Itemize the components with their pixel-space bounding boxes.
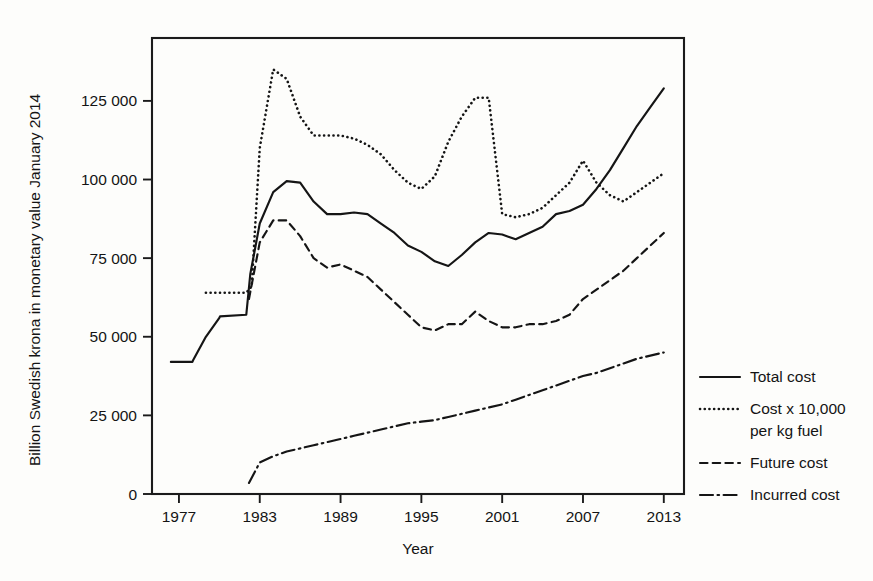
legend-label: Future cost (750, 454, 828, 471)
y-tick-label: 125 000 (81, 92, 137, 109)
x-tick-label: 1977 (162, 508, 196, 525)
y-tick-label: 0 (128, 486, 137, 503)
x-tick-label: 1983 (243, 508, 277, 525)
legend-label-continued: per kg fuel (750, 422, 822, 439)
x-tick-label: 1995 (404, 508, 438, 525)
y-tick-label: 100 000 (81, 171, 137, 188)
x-tick-label: 2007 (566, 508, 600, 525)
x-tick-label: 2001 (485, 508, 519, 525)
y-tick-label: 25 000 (90, 407, 138, 424)
x-axis-title: Year (402, 540, 433, 557)
y-tick-label: 75 000 (90, 250, 138, 267)
x-tick-label: 1989 (323, 508, 357, 525)
legend-label: Incurred cost (750, 486, 840, 503)
line-chart-figure: Billion Swedish krona in monetary value … (0, 0, 873, 581)
y-tick-label: 50 000 (90, 328, 138, 345)
legend-label: Cost x 10,000 (750, 400, 846, 417)
legend-label: Total cost (750, 368, 816, 385)
x-tick-label: 2013 (647, 508, 681, 525)
y-axis-title: Billion Swedish krona in monetary value … (26, 93, 43, 466)
